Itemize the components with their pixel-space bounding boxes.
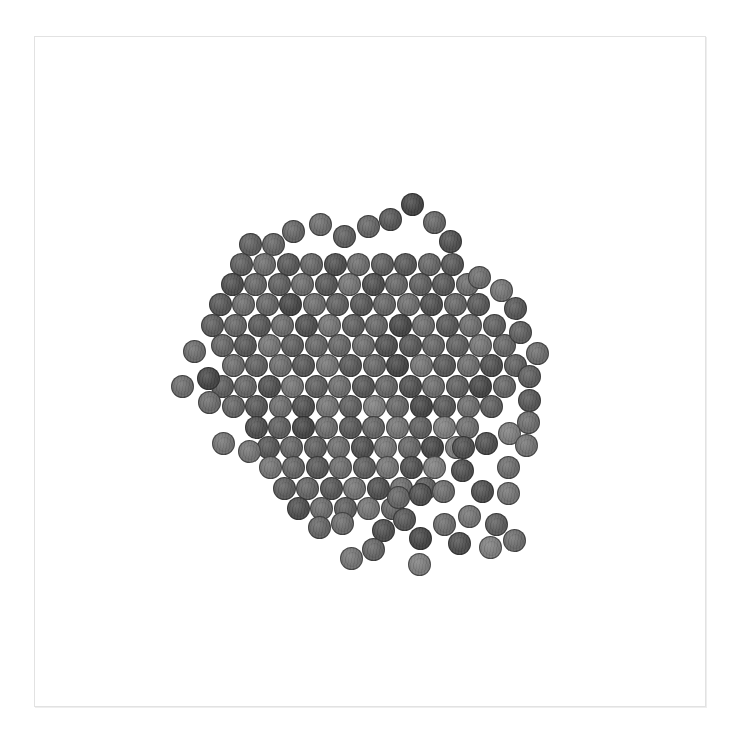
coin bbox=[373, 293, 396, 316]
coin bbox=[209, 293, 232, 316]
coin bbox=[448, 532, 471, 555]
coin bbox=[342, 314, 365, 337]
coin bbox=[518, 389, 541, 412]
coin bbox=[408, 553, 431, 576]
coin bbox=[245, 416, 268, 439]
coin bbox=[303, 293, 326, 316]
coin bbox=[457, 395, 480, 418]
coin bbox=[497, 456, 520, 479]
coin bbox=[436, 314, 459, 337]
coin bbox=[259, 456, 282, 479]
coin bbox=[433, 513, 456, 536]
coin bbox=[353, 456, 376, 479]
coin bbox=[483, 314, 506, 337]
coin bbox=[306, 456, 329, 479]
coin bbox=[282, 220, 305, 243]
coin bbox=[433, 395, 456, 418]
coin bbox=[362, 273, 385, 296]
coin bbox=[480, 354, 503, 377]
coin bbox=[292, 354, 315, 377]
coin bbox=[480, 395, 503, 418]
coin bbox=[326, 293, 349, 316]
coin bbox=[211, 334, 234, 357]
coin bbox=[469, 375, 492, 398]
coin bbox=[305, 334, 328, 357]
coin bbox=[497, 482, 520, 505]
coin bbox=[295, 314, 318, 337]
coin bbox=[422, 375, 445, 398]
coin bbox=[305, 375, 328, 398]
coin-pile bbox=[0, 0, 741, 740]
coin bbox=[351, 436, 374, 459]
coin bbox=[333, 225, 356, 248]
coin bbox=[386, 395, 409, 418]
coin bbox=[316, 395, 339, 418]
coin bbox=[245, 395, 268, 418]
coin bbox=[409, 416, 432, 439]
coin bbox=[340, 547, 363, 570]
coin bbox=[197, 367, 220, 390]
coin bbox=[269, 354, 292, 377]
coin bbox=[400, 456, 423, 479]
coin bbox=[245, 354, 268, 377]
coin bbox=[222, 354, 245, 377]
coin bbox=[475, 432, 498, 455]
coin bbox=[339, 416, 362, 439]
coin bbox=[304, 436, 327, 459]
coin bbox=[331, 512, 354, 535]
coin bbox=[339, 354, 362, 377]
coin bbox=[515, 434, 538, 457]
coin bbox=[468, 266, 491, 289]
coin bbox=[458, 505, 481, 528]
coin bbox=[269, 395, 292, 418]
coin bbox=[397, 293, 420, 316]
coin bbox=[201, 314, 224, 337]
coin bbox=[452, 436, 475, 459]
coin bbox=[446, 375, 469, 398]
coin bbox=[268, 416, 291, 439]
coin bbox=[338, 273, 361, 296]
coin bbox=[446, 334, 469, 357]
coin bbox=[432, 273, 455, 296]
coin bbox=[315, 273, 338, 296]
coin bbox=[232, 293, 255, 316]
coin bbox=[291, 273, 314, 296]
coin bbox=[376, 456, 399, 479]
coin bbox=[493, 375, 516, 398]
coin bbox=[410, 395, 433, 418]
coin bbox=[281, 375, 304, 398]
coin bbox=[248, 314, 271, 337]
coin bbox=[258, 375, 281, 398]
coin bbox=[375, 375, 398, 398]
coin bbox=[279, 293, 302, 316]
coin bbox=[389, 314, 412, 337]
coin bbox=[379, 208, 402, 231]
coin bbox=[423, 211, 446, 234]
coin bbox=[222, 395, 245, 418]
coin bbox=[316, 354, 339, 377]
coin bbox=[467, 293, 490, 316]
coin bbox=[363, 354, 386, 377]
coin bbox=[456, 416, 479, 439]
coin bbox=[451, 459, 474, 482]
coin bbox=[375, 334, 398, 357]
coin bbox=[357, 497, 380, 520]
coin bbox=[457, 354, 480, 377]
coin bbox=[479, 536, 502, 559]
coin bbox=[423, 456, 446, 479]
coin bbox=[281, 334, 304, 357]
coin bbox=[268, 273, 291, 296]
coin bbox=[292, 416, 315, 439]
coin bbox=[399, 334, 422, 357]
coin bbox=[398, 436, 421, 459]
coin bbox=[244, 273, 267, 296]
coin bbox=[357, 215, 380, 238]
coin bbox=[439, 230, 462, 253]
coin bbox=[238, 440, 261, 463]
coin bbox=[352, 375, 375, 398]
coin bbox=[509, 321, 532, 344]
coin bbox=[292, 395, 315, 418]
coin bbox=[469, 334, 492, 357]
coin bbox=[422, 334, 445, 357]
coin bbox=[503, 529, 526, 552]
